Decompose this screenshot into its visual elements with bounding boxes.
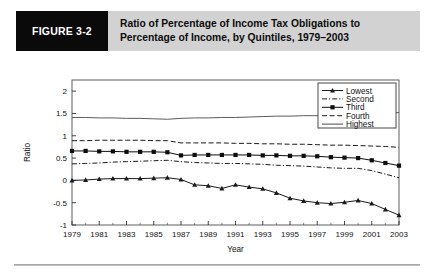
y-axis-tick-label: -1	[60, 221, 68, 230]
x-axis-tick-label: 2003	[390, 230, 408, 239]
data-point-third	[315, 154, 319, 158]
data-point-third	[179, 153, 183, 157]
x-axis-tick-label: 1987	[172, 230, 190, 239]
figure-title-line-1: Ratio of Percentage of Income Tax Obliga…	[120, 18, 360, 29]
legend-marker-third	[330, 105, 334, 109]
data-point-third	[274, 153, 278, 157]
x-axis-tick-label: 1981	[90, 230, 108, 239]
x-axis-tick-label: 1997	[308, 230, 326, 239]
figure-header-band: FIGURE 3-2 Ratio of Percentage of Income…	[16, 11, 420, 51]
data-point-third	[152, 150, 156, 154]
footer-divider-rule	[14, 264, 420, 266]
data-point-third	[220, 153, 224, 157]
data-point-third	[288, 154, 292, 158]
x-axis-tick-label: 1979	[63, 230, 81, 239]
line-chart: -1-0.500.511.521979198119831985198719891…	[0, 58, 433, 258]
data-point-third	[193, 153, 197, 157]
y-axis-tick-label: 0.5	[56, 154, 68, 163]
figure-title-line-2: Percentage of Income, by Quintiles, 1979…	[120, 32, 349, 43]
x-axis-tick-label: 1999	[336, 230, 354, 239]
data-point-third	[124, 150, 128, 154]
data-point-third	[111, 149, 115, 153]
data-point-third	[302, 154, 306, 158]
data-point-third	[206, 153, 210, 157]
data-point-third	[329, 155, 333, 159]
x-axis-tick-label: 2001	[363, 230, 381, 239]
y-axis-tick-label: 1	[63, 132, 68, 141]
data-point-third	[70, 149, 74, 153]
y-axis-tick-label: 2	[63, 87, 68, 96]
data-point-third	[383, 161, 387, 165]
data-point-third	[233, 153, 237, 157]
x-axis-tick-label: 1995	[281, 230, 299, 239]
y-axis-tick-label: 0	[63, 176, 68, 185]
data-point-third	[97, 149, 101, 153]
data-point-third	[84, 149, 88, 153]
y-axis-title: Ratio	[23, 143, 32, 163]
x-axis-tick-label: 1985	[145, 230, 163, 239]
x-axis-tick-label: 1983	[118, 230, 136, 239]
x-axis-tick-label: 1989	[199, 230, 217, 239]
data-point-third	[356, 156, 360, 160]
data-point-third	[165, 150, 169, 154]
x-axis-tick-label: 1993	[254, 230, 272, 239]
figure-title: Ratio of Percentage of Income Tax Obliga…	[108, 11, 420, 51]
data-point-third	[342, 156, 346, 160]
x-axis-title: Year	[227, 245, 244, 254]
y-axis-tick-label: -0.5	[53, 199, 67, 208]
figure-number-tag: FIGURE 3-2	[16, 11, 108, 51]
y-axis-tick-label: 1.5	[56, 109, 68, 118]
data-point-third	[247, 153, 251, 157]
data-point-third	[397, 164, 401, 168]
x-axis-tick-label: 1991	[227, 230, 245, 239]
figure-page: { "figure": { "tag": "FIGURE 3-2", "titl…	[0, 0, 433, 280]
data-point-third	[261, 153, 265, 157]
legend-label-highest: Highest	[346, 120, 374, 129]
data-point-third	[138, 150, 142, 154]
chart-container: -1-0.500.511.521979198119831985198719891…	[0, 58, 433, 258]
data-point-third	[370, 158, 374, 162]
